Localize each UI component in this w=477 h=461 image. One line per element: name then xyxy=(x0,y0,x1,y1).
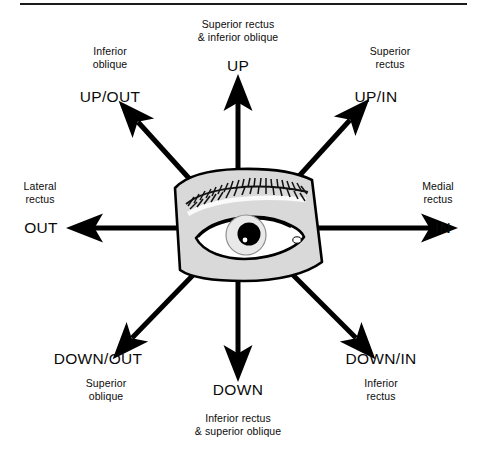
pupil-highlight xyxy=(243,238,248,243)
direction-label-up-out: UP/OUT xyxy=(80,88,140,107)
eye-illustration xyxy=(175,169,322,281)
muscle-label-down-out: Superior oblique xyxy=(86,377,127,403)
pupil xyxy=(238,223,261,246)
muscle-label-down-in: Inferior rectus xyxy=(364,377,397,403)
arrow-up xyxy=(224,74,253,176)
arrow-left xyxy=(66,214,182,243)
direction-label-down-out: DOWN/OUT xyxy=(54,350,143,369)
direction-label-in: IN xyxy=(435,219,451,238)
arrow-down xyxy=(224,282,253,382)
muscle-label-up: Superior rectus & inferior oblique xyxy=(198,18,279,44)
muscle-label-out: Lateral rectus xyxy=(24,180,57,206)
diagram-canvas: Superior rectus & inferior oblique UP In… xyxy=(0,0,477,461)
direction-label-down-in: DOWN/IN xyxy=(346,350,417,369)
direction-label-down: DOWN xyxy=(213,381,263,400)
muscle-label-up-in: Superior rectus xyxy=(370,45,411,71)
direction-label-up-in: UP/IN xyxy=(355,88,398,107)
muscle-label-in: Medial rectus xyxy=(422,180,454,206)
muscle-label-down: Inferior rectus & superior oblique xyxy=(195,412,281,438)
direction-label-up: UP xyxy=(227,57,249,76)
muscle-label-up-out: Inferior oblique xyxy=(93,45,128,71)
direction-label-out: OUT xyxy=(24,219,58,238)
canthus-highlight xyxy=(293,237,301,243)
